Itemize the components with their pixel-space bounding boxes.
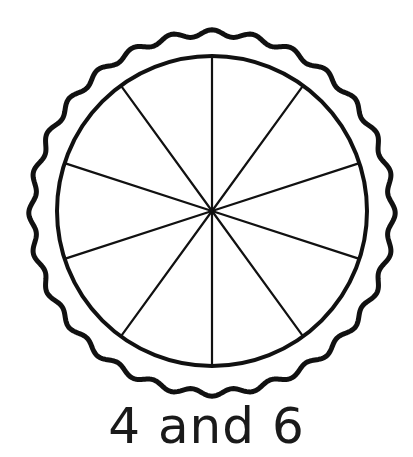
pie-with-crust bbox=[0, 0, 413, 400]
caption-label: 4 and 6 bbox=[0, 396, 413, 456]
